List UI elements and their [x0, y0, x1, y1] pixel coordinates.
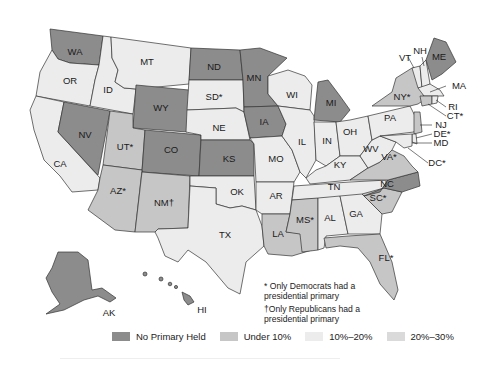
svg-text:CO: CO — [164, 144, 178, 155]
swatch-20-30 — [387, 332, 405, 341]
svg-text:MO: MO — [268, 153, 283, 164]
svg-text:WV: WV — [363, 143, 379, 154]
svg-text:MN: MN — [247, 72, 262, 83]
svg-text:LA: LA — [272, 228, 284, 239]
svg-text:GA: GA — [349, 208, 363, 219]
note-democrats-only: * Only Democrats had a presidential prim… — [264, 281, 374, 301]
svg-text:MT: MT — [140, 56, 154, 67]
legend-no-primary: No Primary Held — [112, 331, 206, 342]
svg-text:SC*: SC* — [370, 192, 387, 203]
state-HI[interactable] — [143, 272, 194, 305]
svg-text:NV: NV — [78, 129, 92, 140]
svg-text:VT: VT — [399, 52, 411, 63]
svg-text:IA: IA — [260, 116, 270, 127]
svg-text:CT*: CT* — [447, 110, 464, 121]
swatch-10-20 — [305, 332, 323, 341]
us-map: WA OR CA ID NV MT WY UT* AZ* CO NM† ND S… — [0, 0, 489, 367]
svg-text:ND: ND — [207, 61, 221, 72]
svg-text:NM†: NM† — [154, 197, 174, 208]
legend-label: 10%–20% — [329, 331, 372, 342]
svg-text:OR: OR — [63, 75, 77, 86]
svg-text:KS: KS — [223, 153, 236, 164]
svg-text:ID: ID — [103, 84, 113, 95]
svg-text:MI: MI — [326, 97, 337, 108]
svg-text:VA*: VA* — [381, 151, 397, 162]
legend-label: 20%–30% — [411, 331, 454, 342]
state-AK[interactable] — [46, 252, 116, 314]
svg-text:MA: MA — [452, 80, 467, 91]
state-DE[interactable] — [412, 134, 417, 144]
svg-text:AR: AR — [269, 190, 282, 201]
legend-label: Under 10% — [244, 331, 292, 342]
swatch-under-10 — [220, 332, 238, 341]
svg-text:OK: OK — [230, 186, 244, 197]
legend-20-30: 20%–30% — [387, 331, 454, 342]
svg-text:KY: KY — [334, 159, 347, 170]
state-RI[interactable] — [432, 96, 438, 104]
note-republicans-only: †Only Republicans had a presidential pri… — [264, 304, 374, 324]
svg-text:AL: AL — [324, 212, 336, 223]
svg-text:NE: NE — [212, 122, 225, 133]
svg-text:CA: CA — [53, 158, 67, 169]
svg-text:ME: ME — [432, 51, 446, 62]
svg-text:NC: NC — [380, 178, 394, 189]
svg-text:SD*: SD* — [206, 91, 223, 102]
swatch-no-primary — [112, 332, 130, 341]
divider — [60, 358, 340, 359]
state-CT[interactable] — [420, 96, 432, 106]
svg-text:PA: PA — [384, 112, 397, 123]
svg-text:FL*: FL* — [379, 252, 394, 263]
legend: No Primary Held Under 10% 10%–20% 20%–30… — [112, 331, 468, 342]
legend-10-20: 10%–20% — [305, 331, 372, 342]
svg-text:MD: MD — [434, 137, 449, 148]
svg-text:OH: OH — [343, 126, 357, 137]
svg-text:IL: IL — [298, 136, 306, 147]
svg-text:WI: WI — [286, 89, 298, 100]
legend-under-10: Under 10% — [220, 331, 292, 342]
legend-label: No Primary Held — [136, 331, 206, 342]
svg-text:WY: WY — [153, 102, 169, 113]
svg-text:TX: TX — [219, 229, 232, 240]
svg-text:AZ*: AZ* — [110, 185, 126, 196]
svg-text:TN: TN — [328, 181, 341, 192]
svg-text:NH: NH — [413, 45, 427, 56]
svg-text:DC*: DC* — [428, 157, 446, 168]
svg-text:HI: HI — [197, 304, 207, 315]
svg-text:IN: IN — [322, 135, 332, 146]
svg-text:AK: AK — [103, 307, 116, 318]
svg-text:NY*: NY* — [394, 91, 411, 102]
svg-text:WA: WA — [68, 46, 84, 57]
svg-text:MS*: MS* — [296, 214, 314, 225]
svg-text:UT*: UT* — [117, 141, 134, 152]
state-NJ[interactable] — [414, 112, 422, 134]
